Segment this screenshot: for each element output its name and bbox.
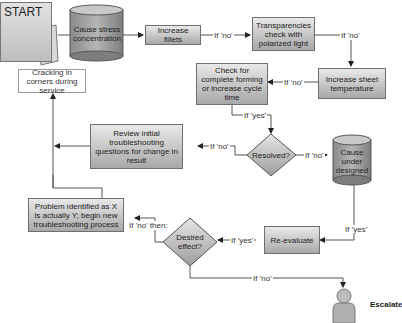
edge-label: If 'no'	[340, 31, 361, 40]
start-box: START	[0, 2, 52, 62]
increase-fillets-node: Increase fillets	[145, 25, 201, 45]
cause-stress-node: Cause stress concentration	[72, 14, 122, 54]
problem-identified-node: Problem identified as X is actually Y; b…	[28, 198, 124, 232]
review-initial-node: Review initial troubleshooting questions…	[90, 124, 183, 169]
desired-effect-node: Desired effect?	[168, 228, 212, 256]
edge-label: If 'yes'	[243, 111, 267, 120]
increase-sheet-temp-node: Increase sheet temperature	[318, 68, 386, 99]
transparencies-node: Transparencies check with polarized ligh…	[252, 17, 315, 51]
edge-label: If 'yes'	[230, 236, 254, 245]
person-icon	[333, 289, 355, 323]
cause-under-designed-node: Cause under designed	[334, 143, 370, 179]
re-evaluate-node: Re-evaluate	[264, 226, 320, 254]
start-label: START	[4, 5, 42, 19]
edge-label: If 'no' then:	[128, 221, 169, 230]
edge-label: If 'yes'	[344, 225, 368, 234]
escalate-label: Escalate	[370, 300, 402, 309]
cracking-node: Cracking in corners during service	[18, 69, 86, 93]
edge-label: If 'no'	[213, 31, 234, 40]
resolved-node: Resolved?	[248, 148, 294, 162]
edge-label: If 'no'	[209, 142, 230, 151]
check-forming-node: Check for complete forming or increase c…	[196, 63, 268, 105]
edge-label: If 'no'	[283, 78, 304, 87]
edge-label: If 'no'	[252, 274, 273, 283]
edge-label: If 'no'	[304, 151, 325, 160]
